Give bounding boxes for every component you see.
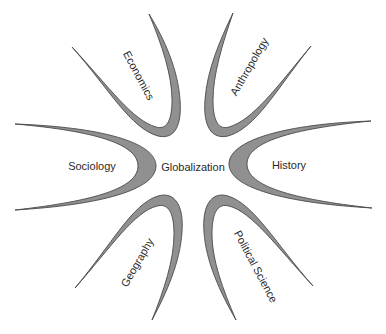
geography-crescent: [75, 195, 182, 320]
globalization-diagram: Globalization Economics Anthropology Soc…: [0, 0, 386, 334]
label-economics: Economics: [121, 49, 157, 103]
economics-crescent: [72, 14, 180, 137]
anthropology-crescent: [205, 13, 311, 137]
label-sociology: Sociology: [68, 160, 116, 172]
label-anthropology: Anthropology: [228, 35, 271, 98]
label-history: History: [272, 159, 307, 171]
center-label-globalization: Globalization: [161, 161, 225, 173]
label-geography: Geography: [118, 235, 156, 289]
